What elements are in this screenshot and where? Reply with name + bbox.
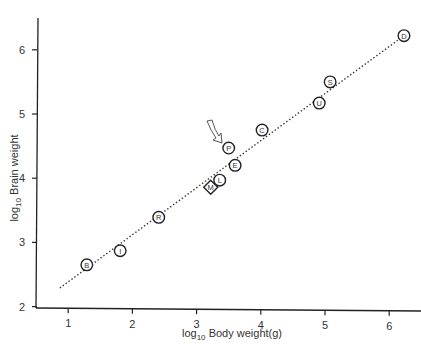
point-label: U bbox=[317, 99, 322, 108]
point-label: L bbox=[218, 176, 222, 185]
data-point-l: L bbox=[214, 174, 226, 186]
y-tick-label: 3 bbox=[19, 236, 25, 248]
curved-arrow-icon bbox=[207, 120, 222, 143]
x-tick-label: 1 bbox=[65, 317, 71, 329]
point-label: C bbox=[259, 126, 265, 135]
y-tick-label: 2 bbox=[19, 301, 25, 313]
data-point-d: D bbox=[398, 30, 410, 42]
x-tick-label: 2 bbox=[129, 318, 135, 330]
data-point-u: U bbox=[313, 97, 325, 109]
data-point-s: S bbox=[324, 76, 336, 88]
point-label: I bbox=[119, 247, 121, 256]
y-tick-label: 6 bbox=[19, 44, 25, 56]
point-label: D bbox=[401, 32, 407, 41]
y-axis bbox=[36, 18, 38, 308]
data-point-c: C bbox=[256, 124, 268, 136]
x-axis bbox=[36, 308, 421, 311]
x-tick-label: 5 bbox=[322, 319, 328, 331]
data-points: BIRMLEPCUSD bbox=[81, 30, 410, 271]
y-ticks: 23456 bbox=[19, 44, 37, 313]
scatter-chart: 23456 123456 log10 Brain weight log10 Bo… bbox=[0, 0, 421, 348]
point-label: M bbox=[208, 183, 214, 192]
data-point-b: B bbox=[81, 259, 93, 271]
data-point-i: I bbox=[114, 245, 126, 257]
point-label: B bbox=[84, 261, 89, 270]
point-label: S bbox=[328, 78, 333, 87]
point-label: E bbox=[233, 161, 238, 170]
data-point-e: E bbox=[229, 160, 241, 172]
data-point-p: P bbox=[223, 142, 235, 154]
point-label: P bbox=[226, 144, 231, 153]
point-label: R bbox=[156, 213, 162, 222]
y-tick-label: 5 bbox=[19, 108, 25, 120]
data-point-r: R bbox=[153, 212, 165, 224]
x-tick-label: 6 bbox=[386, 320, 392, 332]
